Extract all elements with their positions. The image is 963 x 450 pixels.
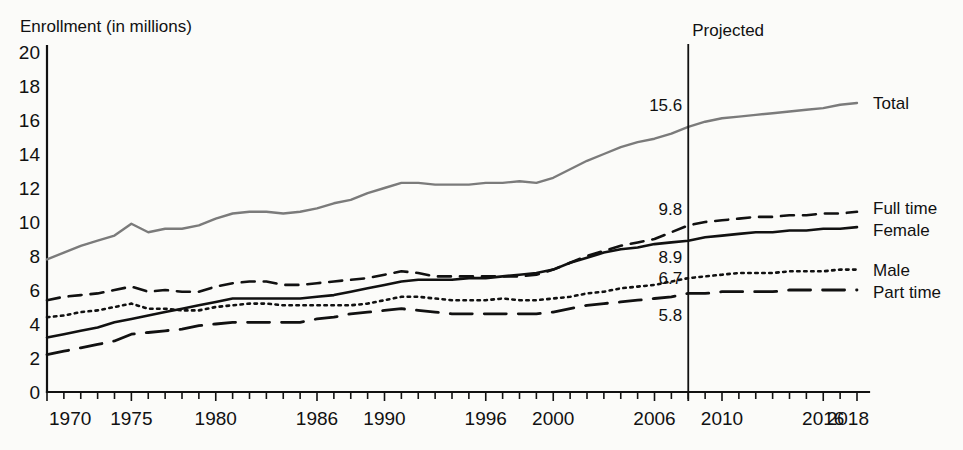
enrollment-line-chart: Enrollment (in millions) 024681012141618… (0, 0, 963, 450)
x-tick-label-group: 1970197519801986199019962000200620102016… (49, 408, 869, 429)
series-label-full-time: Full time (873, 199, 937, 218)
y-axis-title: Enrollment (in millions) (20, 17, 192, 36)
x-tick-label: 1975 (110, 408, 152, 429)
value-label-male: 6.7 (659, 269, 683, 288)
y-tick-label: 6 (29, 280, 40, 301)
y-tick-label: 0 (29, 382, 40, 403)
y-tick-label: 8 (29, 246, 40, 267)
x-tick-label: 1990 (363, 408, 405, 429)
series-label-male: Male (873, 261, 910, 280)
x-tick-label: 1970 (49, 408, 91, 429)
series-label-total: Total (873, 94, 909, 113)
series-paths-group (47, 103, 857, 355)
y-tick-label: 18 (19, 76, 40, 97)
x-tick-label: 1986 (296, 408, 338, 429)
value-label-female: 8.9 (659, 248, 683, 267)
series-label-group: TotalFull timeFemaleMalePart time (873, 94, 941, 302)
chart-canvas: Enrollment (in millions) 024681012141618… (0, 0, 963, 450)
value-label-total: 15.6 (649, 96, 682, 115)
series-label-part-time: Part time (873, 283, 941, 302)
series-line-female (47, 227, 857, 338)
projected-label: Projected (692, 21, 764, 40)
y-tick-label: 4 (29, 314, 40, 335)
value-label-part-time: 5.8 (659, 306, 683, 325)
y-tick-label: 14 (19, 144, 41, 165)
x-tick-label: 2006 (633, 408, 675, 429)
y-axis-title-group: Enrollment (in millions) (20, 17, 192, 36)
y-tick-label: 12 (19, 178, 40, 199)
x-tick-label: 2000 (532, 408, 574, 429)
y-tick-label: 20 (19, 42, 40, 63)
series-line-full-time (47, 212, 857, 300)
y-tick-label: 2 (29, 348, 40, 369)
tick-marks-group (47, 392, 857, 401)
x-tick-label: 1996 (465, 408, 507, 429)
series-label-female: Female (873, 221, 930, 240)
x-tick-label: 2010 (701, 408, 743, 429)
series-line-total (47, 103, 857, 259)
projection-marker-group: Projected (688, 21, 764, 401)
x-tick-label: 2018 (827, 408, 869, 429)
y-tick-label: 16 (19, 110, 40, 131)
value-label-full-time: 9.8 (659, 200, 683, 219)
y-tick-label-group: 02468101214161820 (19, 42, 41, 403)
x-tick-label: 1980 (195, 408, 237, 429)
y-tick-label: 10 (19, 212, 40, 233)
